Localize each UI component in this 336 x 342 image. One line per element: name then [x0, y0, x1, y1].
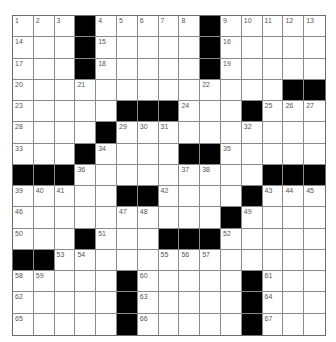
grid-cell[interactable]: 30 — [138, 122, 159, 143]
grid-cell[interactable] — [179, 207, 200, 228]
grid-cell[interactable] — [179, 37, 200, 58]
grid-cell[interactable] — [283, 144, 304, 165]
grid-cell[interactable] — [221, 271, 242, 292]
grid-cell[interactable]: 41 — [55, 186, 76, 207]
grid-cell[interactable] — [75, 207, 96, 228]
grid-cell[interactable] — [179, 314, 200, 335]
grid-cell[interactable] — [75, 186, 96, 207]
grid-cell[interactable] — [263, 207, 284, 228]
grid-cell[interactable]: 2 — [34, 16, 55, 37]
grid-cell[interactable] — [263, 80, 284, 101]
grid-cell[interactable]: 12 — [283, 16, 304, 37]
grid-cell[interactable]: 51 — [96, 229, 117, 250]
grid-cell[interactable]: 37 — [179, 165, 200, 186]
grid-cell[interactable] — [242, 250, 263, 271]
grid-cell[interactable] — [138, 165, 159, 186]
grid-cell[interactable] — [283, 271, 304, 292]
grid-cell[interactable]: 60 — [138, 271, 159, 292]
grid-cell[interactable] — [304, 59, 325, 80]
grid-cell[interactable] — [221, 292, 242, 313]
grid-cell[interactable]: 65 — [13, 314, 34, 335]
grid-cell[interactable] — [96, 80, 117, 101]
grid-cell[interactable]: 4 — [96, 16, 117, 37]
grid-cell[interactable] — [263, 59, 284, 80]
grid-cell[interactable] — [221, 165, 242, 186]
grid-cell[interactable] — [34, 292, 55, 313]
grid-cell[interactable] — [55, 271, 76, 292]
grid-cell[interactable]: 15 — [96, 37, 117, 58]
grid-cell[interactable] — [304, 37, 325, 58]
grid-cell[interactable] — [263, 229, 284, 250]
grid-cell[interactable] — [96, 101, 117, 122]
grid-cell[interactable] — [283, 37, 304, 58]
grid-cell[interactable] — [242, 59, 263, 80]
grid-cell[interactable] — [263, 122, 284, 143]
grid-cell[interactable]: 61 — [263, 271, 284, 292]
grid-cell[interactable] — [96, 292, 117, 313]
grid-cell[interactable] — [34, 80, 55, 101]
grid-cell[interactable] — [304, 229, 325, 250]
grid-cell[interactable] — [283, 59, 304, 80]
grid-cell[interactable] — [55, 80, 76, 101]
grid-cell[interactable] — [283, 292, 304, 313]
grid-cell[interactable] — [304, 314, 325, 335]
grid-cell[interactable] — [138, 80, 159, 101]
grid-cell[interactable]: 33 — [13, 144, 34, 165]
grid-cell[interactable] — [242, 229, 263, 250]
grid-cell[interactable] — [138, 144, 159, 165]
grid-cell[interactable] — [283, 250, 304, 271]
grid-cell[interactable] — [200, 101, 221, 122]
grid-cell[interactable] — [159, 80, 180, 101]
grid-cell[interactable] — [117, 80, 138, 101]
grid-cell[interactable] — [138, 250, 159, 271]
grid-cell[interactable] — [55, 314, 76, 335]
grid-cell[interactable] — [200, 207, 221, 228]
grid-cell[interactable]: 42 — [159, 186, 180, 207]
grid-cell[interactable] — [283, 314, 304, 335]
grid-cell[interactable] — [159, 292, 180, 313]
grid-cell[interactable] — [159, 144, 180, 165]
grid-cell[interactable]: 67 — [263, 314, 284, 335]
grid-cell[interactable] — [242, 37, 263, 58]
grid-cell[interactable] — [34, 59, 55, 80]
grid-cell[interactable]: 26 — [283, 101, 304, 122]
grid-cell[interactable]: 1 — [13, 16, 34, 37]
grid-cell[interactable]: 52 — [221, 229, 242, 250]
grid-cell[interactable] — [263, 250, 284, 271]
grid-cell[interactable] — [179, 292, 200, 313]
grid-cell[interactable] — [96, 207, 117, 228]
grid-cell[interactable] — [200, 292, 221, 313]
grid-cell[interactable] — [283, 207, 304, 228]
grid-cell[interactable]: 64 — [263, 292, 284, 313]
grid-cell[interactable]: 55 — [159, 250, 180, 271]
grid-cell[interactable]: 20 — [13, 80, 34, 101]
grid-cell[interactable]: 7 — [159, 16, 180, 37]
grid-cell[interactable] — [304, 122, 325, 143]
grid-cell[interactable] — [200, 271, 221, 292]
grid-cell[interactable] — [34, 37, 55, 58]
grid-cell[interactable] — [221, 314, 242, 335]
grid-cell[interactable] — [55, 122, 76, 143]
grid-cell[interactable]: 3 — [55, 16, 76, 37]
grid-cell[interactable]: 18 — [96, 59, 117, 80]
grid-cell[interactable] — [304, 292, 325, 313]
grid-cell[interactable] — [159, 59, 180, 80]
grid-cell[interactable] — [34, 101, 55, 122]
grid-cell[interactable] — [75, 292, 96, 313]
grid-cell[interactable] — [159, 165, 180, 186]
grid-cell[interactable]: 57 — [200, 250, 221, 271]
grid-cell[interactable]: 13 — [304, 16, 325, 37]
grid-cell[interactable] — [242, 80, 263, 101]
grid-cell[interactable]: 16 — [221, 37, 242, 58]
grid-cell[interactable] — [34, 229, 55, 250]
grid-cell[interactable]: 44 — [283, 186, 304, 207]
grid-cell[interactable] — [159, 207, 180, 228]
grid-cell[interactable] — [75, 122, 96, 143]
grid-cell[interactable] — [304, 207, 325, 228]
grid-cell[interactable]: 62 — [13, 292, 34, 313]
grid-cell[interactable] — [159, 271, 180, 292]
grid-cell[interactable]: 32 — [242, 122, 263, 143]
grid-cell[interactable] — [96, 250, 117, 271]
grid-cell[interactable] — [221, 250, 242, 271]
grid-cell[interactable] — [159, 314, 180, 335]
